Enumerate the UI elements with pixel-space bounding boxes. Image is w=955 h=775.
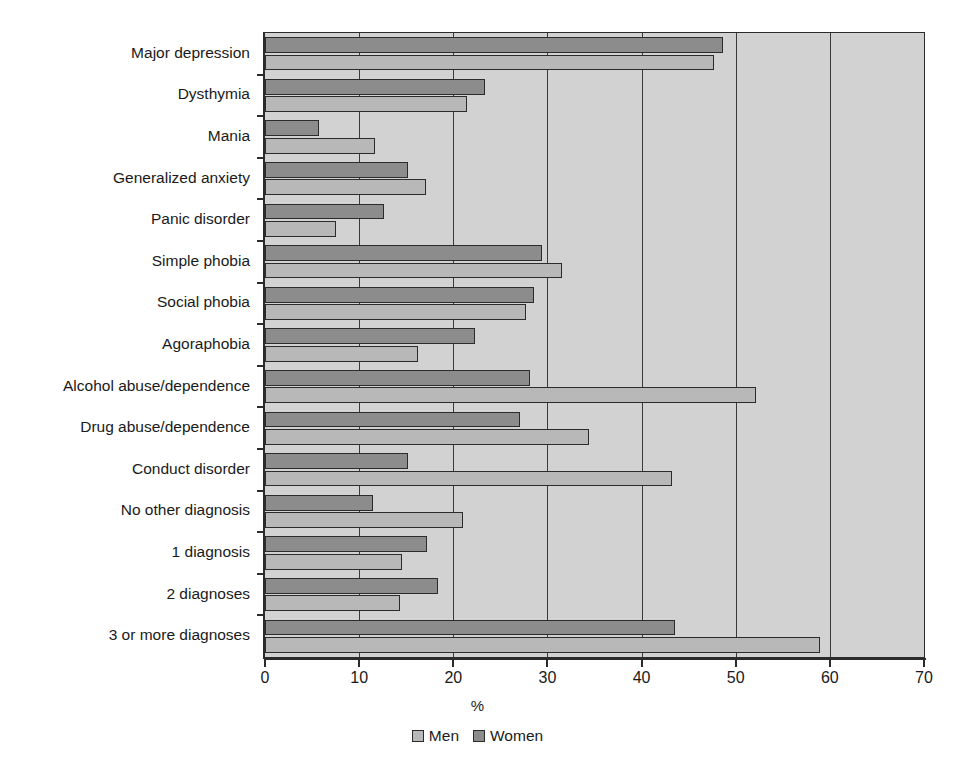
women-swatch-icon <box>473 730 485 742</box>
bar-group <box>265 491 924 533</box>
bar-women <box>265 328 475 344</box>
y-axis-label: Social phobia <box>157 293 250 310</box>
y-axis-tick <box>257 614 264 616</box>
x-axis-tick-label: 70 <box>915 668 933 687</box>
x-axis-tick-label: 60 <box>821 668 839 687</box>
y-axis-tick <box>257 490 264 492</box>
y-axis-line <box>263 32 265 659</box>
y-axis-label: 2 diagnoses <box>166 585 250 602</box>
bar-women <box>265 245 542 261</box>
y-axis-label: Drug abuse/dependence <box>80 418 250 435</box>
bar-rows <box>265 33 924 657</box>
y-axis-label: 3 or more diagnoses <box>109 626 250 643</box>
bar-women <box>265 120 319 136</box>
bar-group <box>265 75 924 117</box>
bar-men <box>265 554 402 570</box>
bar-group <box>265 116 924 158</box>
y-axis-label: No other diagnosis <box>121 501 250 518</box>
bar-men <box>265 637 820 653</box>
x-axis-tick-20 <box>452 660 454 667</box>
x-axis-tick-label: 20 <box>444 668 462 687</box>
bar-men <box>265 138 375 154</box>
bar-men <box>265 96 467 112</box>
bar-group <box>265 574 924 616</box>
legend: Men Women <box>0 727 955 745</box>
y-axis-tick <box>257 282 264 284</box>
bar-group <box>265 241 924 283</box>
bar-women <box>265 204 384 220</box>
bar-men <box>265 387 756 403</box>
y-axis-label: Generalized anxiety <box>113 169 250 186</box>
bar-women <box>265 79 485 95</box>
plot-area <box>264 32 925 658</box>
x-axis-line <box>264 658 926 660</box>
x-axis-title: % <box>0 697 955 714</box>
y-axis-labels: Major depressionDysthymiaManiaGeneralize… <box>0 32 258 658</box>
x-axis-tick-60 <box>829 660 831 667</box>
bar-men <box>265 55 714 71</box>
y-axis-tick <box>257 115 264 117</box>
y-axis-label: Conduct disorder <box>132 460 250 477</box>
bar-men <box>265 263 562 279</box>
y-axis-label: 1 diagnosis <box>172 543 250 560</box>
bar-women <box>265 495 373 511</box>
x-axis-tick-0 <box>264 660 266 667</box>
bar-group <box>265 532 924 574</box>
bar-group <box>265 33 924 75</box>
bar-group <box>265 615 924 657</box>
y-axis-label: Simple phobia <box>152 252 250 269</box>
bar-group <box>265 449 924 491</box>
legend-item-women: Women <box>473 727 543 745</box>
bar-women <box>265 536 427 552</box>
bar-women <box>265 412 520 428</box>
y-axis-tick <box>257 365 264 367</box>
bar-women <box>265 453 408 469</box>
bar-group <box>265 366 924 408</box>
y-axis-tick <box>257 240 264 242</box>
bar-men <box>265 429 589 445</box>
bar-men <box>265 512 463 528</box>
x-axis-tick-70 <box>923 660 925 667</box>
y-axis-label: Major depression <box>131 44 250 61</box>
legend-label-women: Women <box>490 727 543 745</box>
y-axis-label: Mania <box>208 127 250 144</box>
y-axis-tick <box>257 157 264 159</box>
bar-women <box>265 162 408 178</box>
x-axis-tick-50 <box>735 660 737 667</box>
x-axis-tick-label: 0 <box>261 668 270 687</box>
bar-group <box>265 324 924 366</box>
bar-men <box>265 471 672 487</box>
y-axis-tick <box>257 573 264 575</box>
y-axis-tick <box>257 198 264 200</box>
legend-item-men: Men <box>412 727 459 745</box>
x-axis-tick-label: 50 <box>727 668 745 687</box>
bar-group <box>265 407 924 449</box>
y-axis-label: Alcohol abuse/dependence <box>63 377 250 394</box>
bar-women <box>265 287 534 303</box>
bar-men <box>265 304 526 320</box>
y-axis-tick <box>257 531 264 533</box>
bar-group <box>265 199 924 241</box>
y-axis-tick <box>257 448 264 450</box>
men-swatch-icon <box>412 730 424 742</box>
bar-men <box>265 221 336 237</box>
bar-women <box>265 578 438 594</box>
bar-men <box>265 179 426 195</box>
bar-group <box>265 158 924 200</box>
bar-men <box>265 595 400 611</box>
y-axis-tick <box>257 74 264 76</box>
x-axis-tick-label: 30 <box>539 668 557 687</box>
y-axis-label: Panic disorder <box>151 210 250 227</box>
x-axis-tick-30 <box>546 660 548 667</box>
x-axis-tick-label: 40 <box>633 668 651 687</box>
bar-women <box>265 620 675 636</box>
y-axis-tick <box>257 323 264 325</box>
bar-group <box>265 283 924 325</box>
x-axis-tick-10 <box>358 660 360 667</box>
y-axis-tick <box>257 406 264 408</box>
x-axis-tick-label: 10 <box>350 668 368 687</box>
x-axis-tick-40 <box>641 660 643 667</box>
legend-label-men: Men <box>429 727 459 745</box>
y-axis-label: Agoraphobia <box>162 335 250 352</box>
bar-women <box>265 37 723 53</box>
